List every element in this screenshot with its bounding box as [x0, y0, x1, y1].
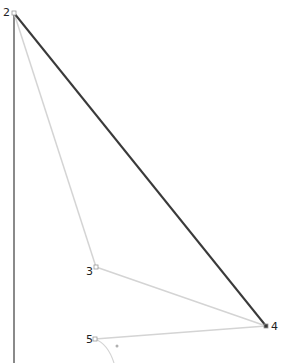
- point-3-handle[interactable]: [94, 265, 98, 269]
- diagram-canvas: [0, 0, 285, 363]
- curve-segment: [95, 339, 114, 363]
- marker-dot: [116, 345, 119, 348]
- edge-2-3: [14, 13, 96, 267]
- point-4-label: 4: [271, 321, 278, 332]
- point-3-label: 3: [86, 266, 93, 277]
- edges-group: [14, 13, 266, 339]
- edge-5-4: [95, 326, 266, 339]
- point-2-handle[interactable]: [12, 11, 16, 15]
- point-5-label: 5: [86, 334, 93, 345]
- point-2-label: 2: [3, 7, 10, 18]
- points-group: [12, 11, 268, 341]
- edge-3-4: [96, 267, 266, 326]
- point-4-handle[interactable]: [264, 324, 268, 328]
- point-5-handle[interactable]: [93, 337, 97, 341]
- edge-2-4: [14, 13, 266, 326]
